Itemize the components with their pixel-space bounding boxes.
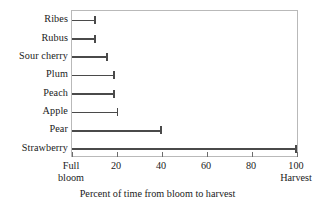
x-tick-label: 20 — [111, 160, 121, 172]
x-tick-label-line1: Full — [63, 160, 79, 171]
x-tick-label-line1: 80 — [246, 160, 256, 171]
category-label: Apple — [0, 105, 68, 116]
bar-end-cap — [113, 71, 115, 79]
x-tick-label-line2: bloom — [58, 172, 84, 184]
bar-row — [72, 144, 299, 153]
bar — [72, 56, 108, 58]
x-tick-label-line2: Harvest — [280, 172, 312, 184]
bar — [72, 38, 96, 40]
x-axis-tick — [162, 152, 163, 157]
bar-chart-figure: RibesRubusSour cherryPlumPeachApplePearS… — [0, 0, 315, 207]
bar — [72, 130, 162, 132]
x-axis-caption: Percent of time from bloom to harvest — [0, 188, 315, 200]
x-axis-tick-labels: Fullbloom20406080100Harvest — [0, 160, 315, 186]
plot-area — [71, 10, 298, 157]
x-tick-label-line1: 100 — [288, 160, 303, 171]
x-axis-tick — [207, 152, 208, 157]
x-axis-tick — [117, 152, 118, 157]
bar-end-cap — [117, 108, 119, 116]
bar — [72, 20, 96, 22]
x-tick-label: 60 — [201, 160, 211, 172]
bar-end-cap — [94, 35, 96, 43]
x-tick-label-line1: 60 — [201, 160, 211, 171]
bar-row — [72, 126, 299, 135]
x-tick-label: Fullbloom — [58, 160, 84, 183]
x-axis-tick — [252, 152, 253, 157]
bar-row — [72, 71, 299, 80]
x-axis-tick — [297, 152, 298, 157]
category-label: Plum — [0, 68, 68, 79]
x-tick-label-line1: 20 — [111, 160, 121, 171]
bar — [72, 148, 297, 150]
x-tick-label: 100Harvest — [280, 160, 312, 183]
x-tick-label: 40 — [156, 160, 166, 172]
category-label: Sour cherry — [0, 50, 68, 61]
category-label: Pear — [0, 123, 68, 134]
bar-end-cap — [113, 90, 115, 98]
plot-inner — [72, 11, 297, 156]
bar-end-cap — [106, 53, 108, 61]
bar-row — [72, 16, 299, 25]
bar — [72, 93, 115, 95]
category-label: Rubus — [0, 32, 68, 43]
category-label: Strawberry — [0, 142, 68, 153]
x-tick-label-line1: 40 — [156, 160, 166, 171]
bar-row — [72, 89, 299, 98]
bar-row — [72, 52, 299, 61]
bar — [72, 112, 118, 114]
x-axis-tick — [72, 152, 73, 157]
bar-end-cap — [94, 16, 96, 24]
category-label: Ribes — [0, 13, 68, 24]
x-tick-label: 80 — [246, 160, 256, 172]
bar-row — [72, 34, 299, 43]
category-label: Peach — [0, 87, 68, 98]
bar-row — [72, 108, 299, 117]
bar-end-cap — [160, 126, 162, 134]
bar — [72, 75, 115, 77]
category-axis-labels: RibesRubusSour cherryPlumPeachApplePearS… — [0, 10, 68, 157]
